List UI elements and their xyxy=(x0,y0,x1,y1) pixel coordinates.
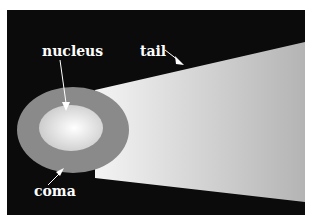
coma-label: coma xyxy=(34,183,76,199)
nucleus xyxy=(39,105,103,151)
comet-diagram: nucleus tail coma xyxy=(0,0,314,222)
nucleus-label: nucleus xyxy=(42,43,103,59)
tail-label: tail xyxy=(140,43,166,59)
